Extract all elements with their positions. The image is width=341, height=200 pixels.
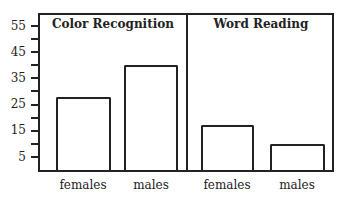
y-tick — [31, 90, 39, 92]
bar-color-females — [56, 97, 111, 170]
bar-color-males — [124, 65, 178, 170]
y-tick-label: 55 — [2, 20, 26, 32]
y-tick-label: 5 — [2, 151, 26, 163]
y-tick — [31, 117, 39, 119]
x-label: males — [262, 178, 332, 192]
panel-divider — [186, 13, 188, 171]
y-tick — [31, 130, 39, 132]
y-tick — [31, 38, 39, 40]
bar-word-females — [201, 125, 254, 170]
bar-word-males — [270, 144, 325, 170]
x-label: males — [116, 178, 186, 192]
y-tick — [31, 51, 39, 53]
y-tick — [31, 143, 39, 145]
panel-title-color-recognition: Color Recognition — [40, 17, 186, 31]
y-tick — [31, 104, 39, 106]
x-label: females — [48, 178, 118, 192]
y-tick-label: 45 — [2, 46, 26, 58]
y-tick — [31, 64, 39, 66]
y-tick-label: 15 — [2, 124, 26, 136]
y-tick — [31, 25, 39, 27]
y-tick — [31, 77, 39, 79]
y-tick-label: 25 — [2, 98, 26, 110]
y-tick-label: 35 — [2, 72, 26, 84]
panel-title-word-reading: Word Reading — [188, 17, 334, 31]
y-axis — [38, 13, 40, 172]
y-tick — [31, 156, 39, 158]
x-label: females — [192, 178, 262, 192]
